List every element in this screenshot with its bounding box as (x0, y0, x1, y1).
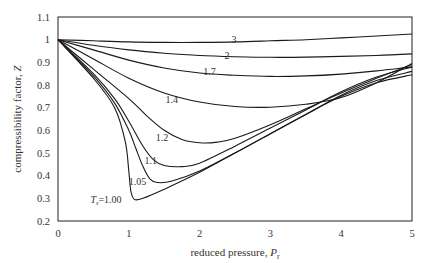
x-tick-label: 1 (126, 228, 131, 239)
x-tick-label: 3 (268, 228, 273, 239)
curve-label: 2 (224, 50, 229, 61)
x-tick-label: 4 (339, 228, 345, 239)
x-tick-label: 2 (197, 228, 202, 239)
compressibility-chart: 1.110.90.80.70.60.50.40.30.2 012345 321.… (0, 0, 430, 263)
curve-group (58, 34, 412, 200)
curve-tr-1.00 (58, 40, 412, 200)
curve-labels: 321.71.41.21.11.05Tr=1.00 (91, 34, 237, 207)
y-tick-label: 0.6 (37, 125, 50, 136)
x-axis-label: reduced pressure, Pr (190, 246, 279, 261)
y-axis-ticks: 1.110.90.80.70.60.50.40.30.2 (37, 12, 51, 227)
y-tick-label: 0.5 (37, 148, 50, 159)
y-axis-label: compressibility factor, Z (11, 64, 23, 172)
curve-label: 1.7 (203, 66, 216, 77)
y-tick-label: 0.4 (37, 170, 51, 181)
curve-tr-1.7 (58, 40, 412, 77)
y-tick-label: 0.2 (37, 216, 50, 227)
x-tick-label: 0 (55, 228, 60, 239)
curve-label: 1.2 (156, 132, 169, 143)
y-tick-label: 0.8 (37, 80, 50, 91)
y-tick-label: 1.1 (37, 12, 50, 23)
curve-label: 3 (231, 34, 236, 45)
curve-label: 1.1 (144, 155, 157, 166)
x-tick-label: 5 (409, 228, 414, 239)
curve-tr-1.1 (58, 40, 412, 167)
curve-tr-1.05 (58, 40, 412, 183)
y-tick-label: 1 (45, 34, 50, 45)
curve-label: 1.05 (129, 176, 147, 187)
y-tick-label: 0.9 (37, 57, 50, 68)
curve-label: Tr=1.00 (91, 194, 122, 208)
y-tick-label: 0.3 (37, 193, 50, 204)
y-tick-label: 0.7 (37, 102, 50, 113)
curve-label: 1.4 (166, 94, 179, 105)
x-axis-ticks: 012345 (55, 228, 414, 239)
